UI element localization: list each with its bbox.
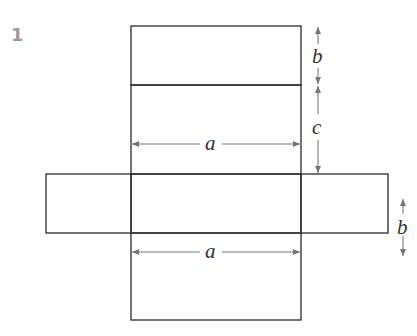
right-face [301, 174, 388, 233]
left-face [46, 174, 131, 233]
bottom-face [131, 174, 301, 233]
back-face [131, 85, 301, 174]
label-c: c [312, 115, 322, 139]
label-top-b: b [312, 44, 323, 68]
label-lower-a: a [205, 239, 216, 263]
top-face [131, 26, 301, 85]
prism-net-diagram: b c a b a [0, 0, 417, 336]
front-face [131, 233, 301, 320]
label-side-b: b [397, 215, 408, 239]
label-upper-a: a [205, 131, 216, 155]
